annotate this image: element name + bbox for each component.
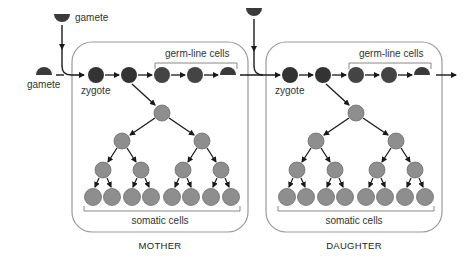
daughter-gamete-forming-icon <box>414 67 430 75</box>
daughter-title: DAUGHTER <box>326 240 382 251</box>
daughter-somatic-l1 <box>348 105 364 121</box>
mother-title: MOTHER <box>139 240 182 251</box>
daughter-germ-cell-2 <box>348 67 364 83</box>
gamete-top-icon <box>54 14 70 22</box>
mother-somatic-label: somatic cells <box>131 215 188 226</box>
gamete-left-icon <box>36 67 52 75</box>
gamete-top-label: gamete <box>75 12 109 23</box>
daughter-germ-cell-3 <box>381 67 397 83</box>
daughter-germ-cell-1 <box>315 67 331 83</box>
mother-germline-label: germ-line cells <box>165 48 229 59</box>
mother-germ-cell-3 <box>187 67 203 83</box>
mother-somatic-leaf-cells <box>85 189 240 206</box>
gamete-top-arrow <box>62 25 84 75</box>
mother-somatic-l1 <box>154 105 170 121</box>
daughter-germline-label: germ-line cells <box>359 48 423 59</box>
gamete-top-daughter-icon <box>246 8 262 16</box>
germline-somatic-diagram: gamete gamete zygote germ-line cells <box>0 0 469 264</box>
arrowhead-icon <box>59 44 65 50</box>
mother-gamete-forming-icon <box>220 67 236 75</box>
mother-germ-cell-2 <box>154 67 170 83</box>
mother-zygote-cell <box>88 67 104 83</box>
daughter-somatic-leaf-cells <box>279 189 434 206</box>
daughter-zygote-cell <box>282 67 298 83</box>
gamete-left-label: gamete <box>27 79 61 90</box>
daughter-somatic-label: somatic cells <box>325 215 382 226</box>
daughter-somatic-bracket <box>278 206 434 211</box>
mother-zygote-label: zygote <box>81 85 111 96</box>
mother-somatic-bracket <box>84 206 240 211</box>
mother-germ-cell-1 <box>121 67 137 83</box>
daughter-zygote-label: zygote <box>275 85 305 96</box>
